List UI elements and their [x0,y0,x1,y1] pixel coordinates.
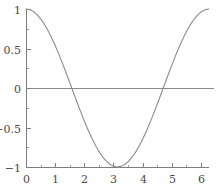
x-axis-tick-label: 6 [198,173,205,186]
cosine-plot-figure: −1−0.500.510123456 [0,0,216,191]
y-axis-tick-label: 0 [14,83,21,96]
x-axis-tick-label: 3 [110,173,117,186]
y-axis-tick-label: −0.5 [0,123,21,136]
x-axis-tick-label: 2 [81,173,88,186]
x-axis-tick-label: 0 [23,173,30,186]
y-axis-tick-label: 0.5 [4,44,22,57]
x-axis-tick-label: 5 [169,173,176,186]
y-axis-tick-label: 1 [14,4,21,17]
y-axis-tick-label: −1 [5,162,21,175]
x-axis-tick-label: 1 [52,173,59,186]
x-axis-tick-label: 4 [140,173,147,186]
plot-canvas: −1−0.500.510123456 [0,0,216,191]
